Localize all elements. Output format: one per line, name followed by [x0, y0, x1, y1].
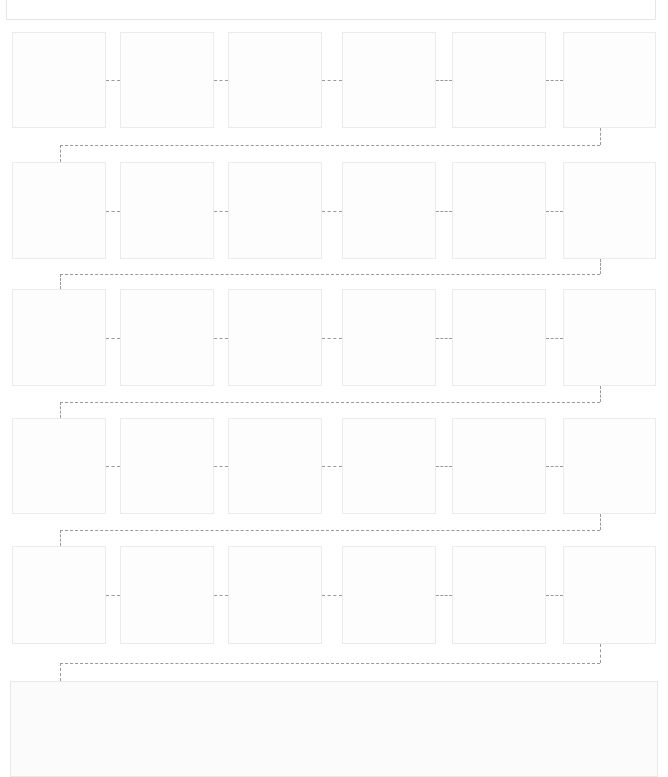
connector-line	[60, 145, 600, 146]
step-box-r3-c1	[12, 289, 106, 386]
step-box-r4-c3	[228, 418, 322, 514]
step-box-r4-c6	[563, 418, 656, 514]
connector-line	[546, 338, 563, 339]
connector-line	[322, 338, 342, 339]
connector-line	[106, 338, 120, 339]
connector-line	[600, 259, 601, 274]
step-box-r3-c2	[120, 289, 214, 386]
connector-line	[600, 386, 601, 402]
connector-line	[546, 466, 563, 467]
step-box-r3-c3	[228, 289, 322, 386]
step-box-r5-c4	[342, 546, 436, 644]
connector-line	[322, 211, 342, 212]
step-box-r5-c2	[120, 546, 214, 644]
connector-line	[106, 466, 120, 467]
connector-line	[60, 402, 61, 418]
connector-line	[436, 595, 452, 596]
step-box-r3-c6	[563, 289, 656, 386]
connector-line	[60, 145, 61, 162]
step-box-r2-c2	[120, 162, 214, 259]
connector-line	[600, 514, 601, 530]
connector-line	[214, 595, 228, 596]
step-box-r1-c3	[228, 32, 322, 128]
step-box-r2-c3	[228, 162, 322, 259]
connector-line	[60, 274, 600, 275]
connector-line	[106, 595, 120, 596]
connector-line	[214, 338, 228, 339]
connector-line	[546, 211, 563, 212]
step-box-r3-c4	[342, 289, 436, 386]
step-box-r1-c1	[12, 32, 106, 128]
connector-line	[60, 402, 600, 403]
step-box-r1-c2	[120, 32, 214, 128]
step-box-r1-c4	[342, 32, 436, 128]
step-box-r1-c6	[563, 32, 656, 128]
connector-line	[214, 466, 228, 467]
connector-line	[436, 338, 452, 339]
connector-line	[322, 595, 342, 596]
connector-line	[214, 211, 228, 212]
step-box-r5-c3	[228, 546, 322, 644]
connector-line	[546, 80, 563, 81]
connector-line	[60, 530, 61, 546]
connector-line	[60, 274, 61, 289]
header-box	[6, 0, 656, 20]
connector-line	[106, 80, 120, 81]
connector-line	[436, 80, 452, 81]
connector-line	[600, 644, 601, 663]
step-box-r4-c2	[120, 418, 214, 514]
step-box-r3-c5	[452, 289, 546, 386]
step-box-r2-c4	[342, 162, 436, 259]
step-box-r1-c5	[452, 32, 546, 128]
connector-line	[214, 80, 228, 81]
step-box-r2-c1	[12, 162, 106, 259]
step-box-r2-c6	[563, 162, 656, 259]
step-box-r5-c5	[452, 546, 546, 644]
final-summary-box	[10, 681, 658, 777]
connector-line	[322, 466, 342, 467]
step-box-r5-c1	[12, 546, 106, 644]
step-box-r4-c5	[452, 418, 546, 514]
step-box-r4-c4	[342, 418, 436, 514]
connector-line	[436, 466, 452, 467]
connector-line	[436, 211, 452, 212]
step-box-r4-c1	[12, 418, 106, 514]
connector-line	[322, 80, 342, 81]
step-box-r5-c6	[563, 546, 656, 644]
connector-line	[546, 595, 563, 596]
connector-line	[60, 530, 600, 531]
connector-line	[106, 211, 120, 212]
connector-line	[60, 663, 600, 664]
connector-line	[60, 663, 61, 681]
step-box-r2-c5	[452, 162, 546, 259]
connector-line	[600, 128, 601, 145]
